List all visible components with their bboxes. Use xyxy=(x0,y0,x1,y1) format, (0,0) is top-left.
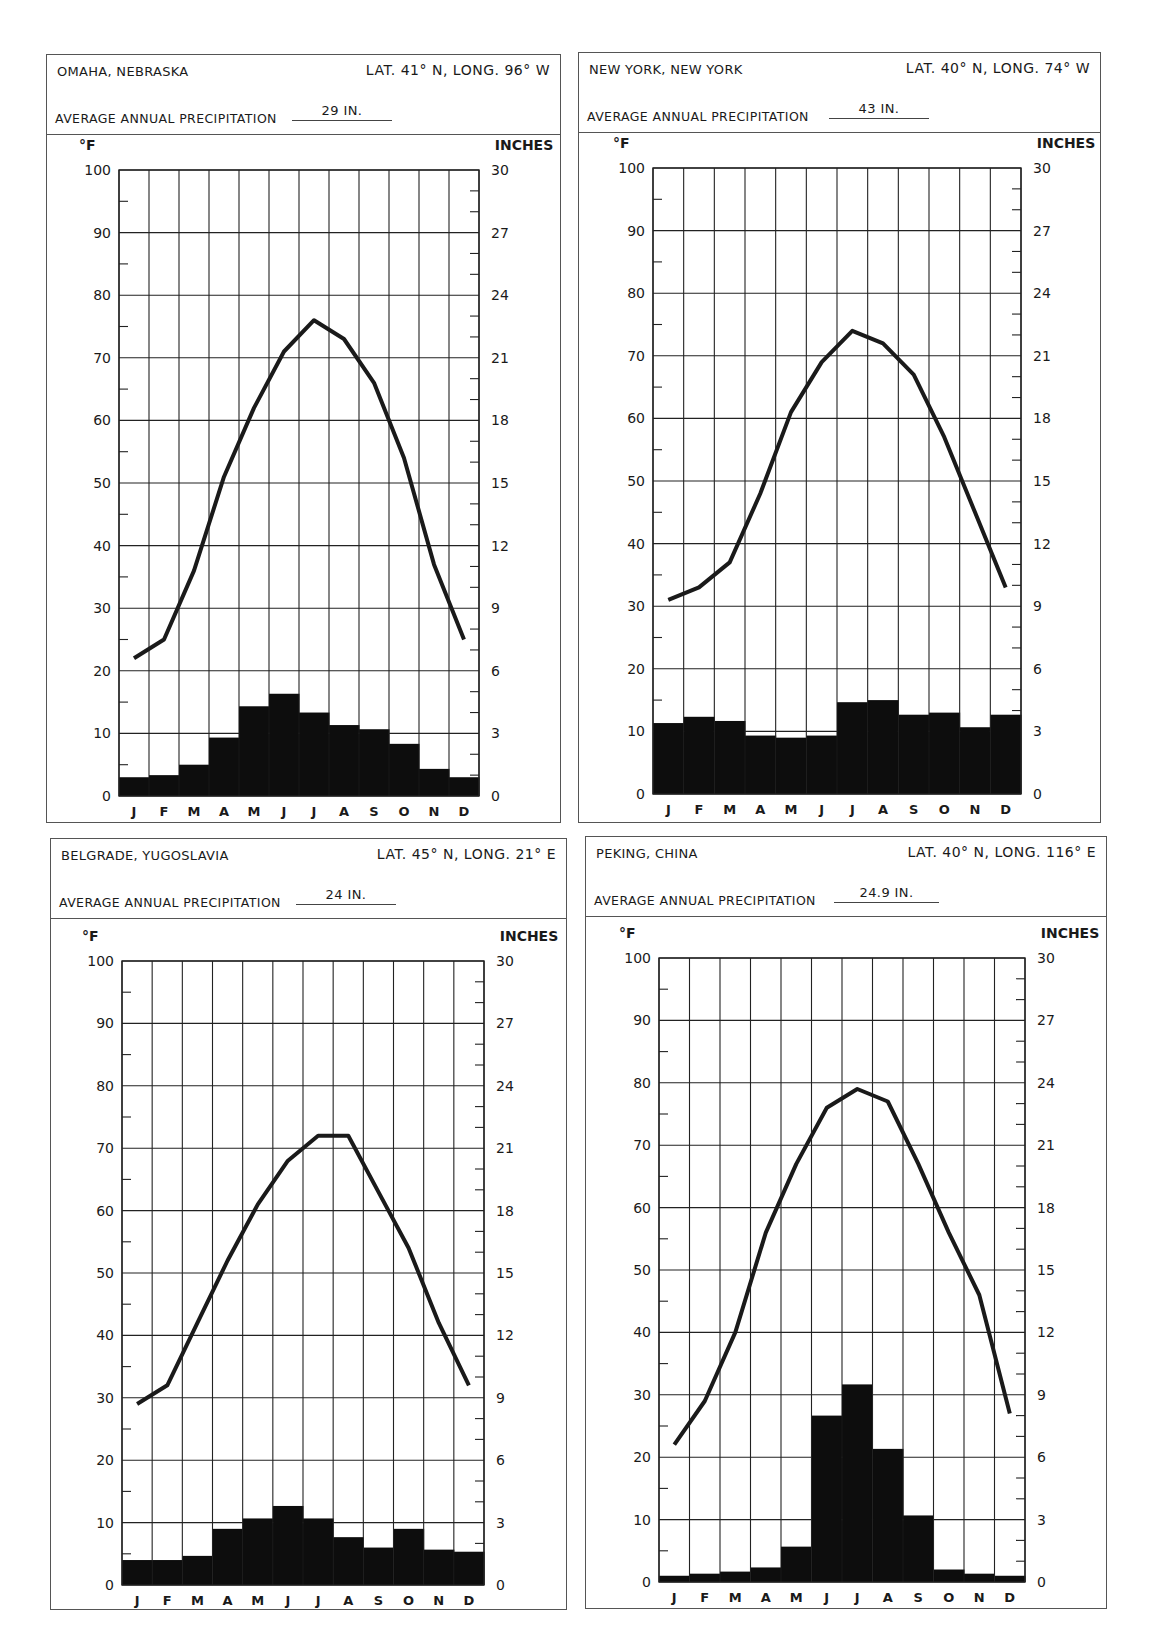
month-label: O xyxy=(943,1590,954,1605)
precip-label: AVERAGE ANNUAL PRECIPITATION xyxy=(587,109,809,124)
left-axis-unit: °F xyxy=(79,137,96,153)
precip-bar-fill xyxy=(420,770,449,796)
left-tick-label: 40 xyxy=(96,1327,114,1343)
left-tick-label: 90 xyxy=(96,1015,114,1031)
precip-bar-fill xyxy=(684,718,713,794)
precip-bar-fill xyxy=(213,1530,242,1585)
right-tick-label: 30 xyxy=(1037,950,1055,966)
right-tick-label: 0 xyxy=(491,788,500,804)
precip-label: AVERAGE ANNUAL PRECIPITATION xyxy=(594,893,816,908)
month-label: O xyxy=(403,1593,414,1608)
left-tick-label: 100 xyxy=(87,953,114,969)
right-tick-label: 24 xyxy=(1037,1075,1055,1091)
precip-bar-fill xyxy=(153,1561,182,1585)
month-label: M xyxy=(790,1590,803,1605)
left-tick-label: 80 xyxy=(93,287,111,303)
right-tick-label: 3 xyxy=(1037,1512,1046,1528)
left-axis-unit: °F xyxy=(613,135,630,151)
precip-bar-fill xyxy=(180,766,209,796)
month-label: J xyxy=(281,804,287,819)
left-tick-label: 30 xyxy=(96,1390,114,1406)
month-label: F xyxy=(700,1590,709,1605)
precip-bar-fill xyxy=(183,1557,212,1585)
right-tick-label: 6 xyxy=(1037,1449,1046,1465)
precip-label: AVERAGE ANNUAL PRECIPITATION xyxy=(59,895,281,910)
right-tick-label: 24 xyxy=(496,1078,514,1094)
right-tick-label: 12 xyxy=(1033,536,1051,552)
right-tick-label: 0 xyxy=(1033,786,1042,802)
month-label: M xyxy=(729,1590,742,1605)
climate-chart: °FINCHES10090807060504030201003027242118… xyxy=(51,919,568,1610)
month-label: N xyxy=(429,804,440,819)
grid xyxy=(653,168,1021,794)
left-tick-label: 70 xyxy=(633,1137,651,1153)
left-tick-label: 0 xyxy=(636,786,645,802)
left-tick-label: 70 xyxy=(627,348,645,364)
month-label: O xyxy=(398,804,409,819)
left-tick-label: 0 xyxy=(105,1577,114,1593)
precip-bar-fill xyxy=(843,1385,872,1582)
right-axis-unit: INCHES xyxy=(1037,135,1096,151)
left-tick-label: 20 xyxy=(96,1452,114,1468)
annual-precip-value: 43 IN. xyxy=(829,101,929,119)
precip-bar-fill xyxy=(210,739,239,796)
precip-bar-fill xyxy=(424,1551,453,1585)
annual-precip-value: 24.9 IN. xyxy=(834,885,939,903)
precip-bar-fill xyxy=(394,1530,423,1585)
left-tick-label: 80 xyxy=(627,285,645,301)
precip-bar-fill xyxy=(746,737,775,794)
grid xyxy=(659,958,1025,1582)
left-tick-label: 100 xyxy=(84,162,111,178)
month-label: A xyxy=(219,804,229,819)
left-tick-label: 70 xyxy=(96,1140,114,1156)
precip-bar-fill xyxy=(904,1516,933,1582)
right-tick-label: 21 xyxy=(1033,348,1051,364)
precip-bar-fill xyxy=(807,737,836,794)
month-label: N xyxy=(433,1593,444,1608)
month-label: S xyxy=(369,804,378,819)
left-tick-label: 30 xyxy=(633,1387,651,1403)
precip-bar-fill xyxy=(364,1549,393,1585)
left-tick-label: 90 xyxy=(627,223,645,239)
left-tick-label: 100 xyxy=(624,950,651,966)
right-tick-label: 21 xyxy=(491,350,509,366)
month-label: N xyxy=(974,1590,985,1605)
precip-bar-fill xyxy=(873,1450,902,1582)
month-label: M xyxy=(723,802,736,817)
annual-precip-value: 24 IN. xyxy=(296,887,396,905)
precip-label: AVERAGE ANNUAL PRECIPITATION xyxy=(55,111,277,126)
month-label: M xyxy=(191,1593,204,1608)
precip-bar-fill xyxy=(360,730,389,796)
month-label: S xyxy=(374,1593,383,1608)
precip-bar-fill xyxy=(304,1519,333,1585)
month-label: F xyxy=(160,804,169,819)
left-tick-label: 30 xyxy=(93,600,111,616)
right-tick-label: 15 xyxy=(1037,1262,1055,1278)
month-label: D xyxy=(1004,1590,1015,1605)
precip-bar-fill xyxy=(454,1553,483,1585)
month-label: F xyxy=(695,802,704,817)
precip-bar-fill xyxy=(838,703,867,794)
right-tick-label: 9 xyxy=(1037,1387,1046,1403)
left-tick-label: 80 xyxy=(633,1075,651,1091)
right-tick-label: 21 xyxy=(496,1140,514,1156)
precip-bar-fill xyxy=(751,1568,780,1582)
left-tick-label: 50 xyxy=(633,1262,651,1278)
precip-bar-fill xyxy=(715,722,744,794)
left-axis-unit: °F xyxy=(82,928,99,944)
left-tick-label: 10 xyxy=(627,723,645,739)
annual-precip-value: 29 IN. xyxy=(292,103,392,121)
precip-bar-fill xyxy=(123,1561,152,1585)
right-tick-label: 6 xyxy=(496,1452,505,1468)
precip-bar-fill xyxy=(960,728,989,794)
left-tick-label: 10 xyxy=(633,1512,651,1528)
precip-bar-fill xyxy=(654,724,683,794)
left-tick-label: 40 xyxy=(627,536,645,552)
lat-long: LAT. 41° N, LONG. 96° W xyxy=(366,62,550,78)
lat-long: LAT. 45° N, LONG. 21° E xyxy=(377,846,556,862)
right-tick-label: 15 xyxy=(496,1265,514,1281)
right-tick-label: 6 xyxy=(1033,661,1042,677)
city-name: BELGRADE, YUGOSLAVIA xyxy=(61,848,229,863)
month-label: M xyxy=(248,804,261,819)
right-tick-label: 0 xyxy=(1037,1574,1046,1590)
